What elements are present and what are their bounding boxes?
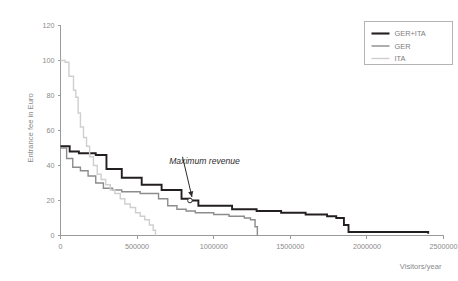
x-axis-title: Visitors/year: [400, 262, 442, 271]
y-axis-title: Entrance fee in Euro: [26, 93, 35, 162]
y-tick-label: 0: [51, 231, 55, 240]
legend-item-ger-ita[interactable]: GER+ITA: [372, 29, 426, 38]
y-tick-label: 120: [43, 21, 55, 30]
x-tick-label: 1500000: [276, 242, 304, 251]
chart-canvas: 020406080100120 050000010000001500000200…: [0, 0, 458, 281]
legend-label: GER+ITA: [395, 29, 426, 38]
legend-item-ger[interactable]: GER: [372, 42, 411, 51]
x-tick-label: 500000: [125, 242, 149, 251]
y-tick-label: 80: [47, 91, 55, 100]
y-tick-label: 60: [47, 126, 55, 135]
legend-label: GER: [395, 42, 411, 51]
chart-figure: 020406080100120 050000010000001500000200…: [0, 0, 458, 281]
annotation-group: Maximum revenue: [169, 156, 240, 203]
x-tick-label: 2000000: [353, 242, 381, 251]
y-tick-label: 20: [47, 196, 55, 205]
maximum-revenue-marker: [188, 198, 193, 203]
series-line-ita: [61, 61, 156, 236]
plot-axes: [58, 26, 444, 239]
data-series-group: [61, 61, 429, 236]
x-tick-label: 2500000: [430, 242, 458, 251]
x-axis-tick-labels: 05000001000000150000020000002500000: [59, 242, 458, 251]
x-tick-label: 1000000: [200, 242, 228, 251]
legend-items: GER+ITAGERITA: [372, 29, 426, 63]
maximum-revenue-label: Maximum revenue: [169, 156, 240, 166]
legend: GER+ITAGERITA: [365, 22, 453, 65]
legend-label: ITA: [395, 54, 406, 63]
y-tick-label: 40: [47, 161, 55, 170]
y-axis-tick-labels: 020406080100120: [43, 21, 55, 240]
annotation-arrowhead: [188, 191, 193, 197]
y-tick-label: 100: [43, 56, 55, 65]
legend-item-ita[interactable]: ITA: [372, 54, 406, 63]
x-tick-label: 0: [59, 242, 63, 251]
